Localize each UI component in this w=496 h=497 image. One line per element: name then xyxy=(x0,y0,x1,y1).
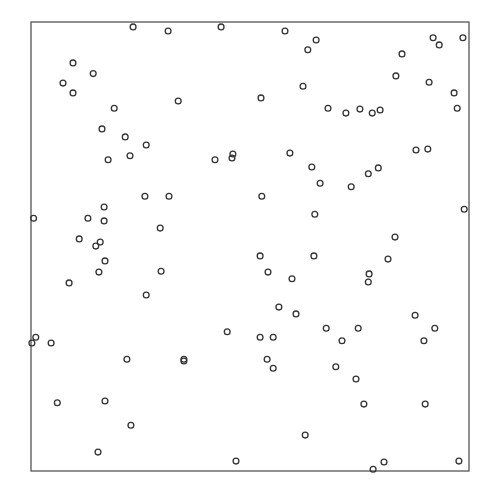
data-point xyxy=(339,338,345,344)
data-point xyxy=(54,400,60,406)
data-point xyxy=(385,256,391,262)
data-point xyxy=(60,80,66,86)
data-point xyxy=(313,37,319,43)
data-point xyxy=(421,338,427,344)
data-point xyxy=(127,153,133,159)
data-point xyxy=(99,126,105,132)
data-point xyxy=(343,110,349,116)
data-point xyxy=(157,225,163,231)
data-point xyxy=(456,458,462,464)
data-point xyxy=(128,422,134,428)
data-point xyxy=(309,164,315,170)
data-point xyxy=(224,329,230,335)
data-point xyxy=(392,234,398,240)
data-point xyxy=(300,83,306,89)
scatter-plot xyxy=(0,0,496,497)
data-point xyxy=(311,253,317,259)
data-point xyxy=(257,253,263,259)
data-point xyxy=(361,401,367,407)
data-point xyxy=(377,107,383,113)
data-point xyxy=(305,47,311,53)
data-point xyxy=(165,28,171,34)
data-point xyxy=(264,356,270,362)
data-point xyxy=(66,280,72,286)
data-point xyxy=(229,155,235,161)
data-point xyxy=(76,236,82,242)
data-point xyxy=(276,304,282,310)
data-point xyxy=(422,401,428,407)
data-point xyxy=(381,459,387,465)
data-point xyxy=(96,269,102,275)
plot-frame xyxy=(31,22,469,471)
data-point xyxy=(143,142,149,148)
data-point xyxy=(218,24,224,30)
data-point xyxy=(85,215,91,221)
data-point xyxy=(142,193,148,199)
data-point xyxy=(289,276,295,282)
data-point xyxy=(90,71,96,77)
data-point xyxy=(375,165,381,171)
data-point xyxy=(101,204,107,210)
data-point xyxy=(432,325,438,331)
data-point xyxy=(270,365,276,371)
data-point xyxy=(302,432,308,438)
data-point xyxy=(124,356,130,362)
data-point xyxy=(101,218,107,224)
data-point xyxy=(357,106,363,112)
data-point xyxy=(212,157,218,163)
data-point xyxy=(451,90,457,96)
data-point xyxy=(265,269,271,275)
data-point xyxy=(259,193,265,199)
data-point xyxy=(33,334,39,340)
data-point xyxy=(325,105,331,111)
data-point xyxy=(111,105,117,111)
data-point xyxy=(317,180,323,186)
data-point xyxy=(158,268,164,274)
data-point xyxy=(122,134,128,140)
data-point xyxy=(461,206,467,212)
data-point xyxy=(365,171,371,177)
data-point xyxy=(436,42,442,48)
data-points xyxy=(29,24,467,472)
data-point xyxy=(426,79,432,85)
data-point xyxy=(287,150,293,156)
data-point xyxy=(460,35,466,41)
data-point xyxy=(353,376,359,382)
data-point xyxy=(102,258,108,264)
data-point xyxy=(258,95,264,101)
data-point xyxy=(413,147,419,153)
data-point xyxy=(270,334,276,340)
data-point xyxy=(312,211,318,217)
data-point xyxy=(369,110,375,116)
data-point xyxy=(29,340,35,346)
data-point xyxy=(102,398,108,404)
data-point xyxy=(70,90,76,96)
data-point xyxy=(175,98,181,104)
data-point xyxy=(333,364,339,370)
data-point xyxy=(293,311,299,317)
data-point xyxy=(282,28,288,34)
data-point xyxy=(233,458,239,464)
scatter-plot-canvas xyxy=(0,0,496,497)
data-point xyxy=(399,51,405,57)
data-point xyxy=(366,271,372,277)
data-point xyxy=(93,243,99,249)
data-point xyxy=(430,35,436,41)
data-point xyxy=(454,105,460,111)
data-point xyxy=(48,340,54,346)
data-point xyxy=(412,312,418,318)
data-point xyxy=(365,279,371,285)
data-point xyxy=(393,73,399,79)
data-point xyxy=(70,60,76,66)
data-point xyxy=(105,157,111,163)
data-point xyxy=(166,193,172,199)
data-point xyxy=(95,449,101,455)
data-point xyxy=(348,184,354,190)
data-point xyxy=(143,292,149,298)
data-point xyxy=(257,334,263,340)
data-point xyxy=(355,325,361,331)
data-point xyxy=(425,146,431,152)
data-point xyxy=(130,24,136,30)
data-point xyxy=(323,325,329,331)
